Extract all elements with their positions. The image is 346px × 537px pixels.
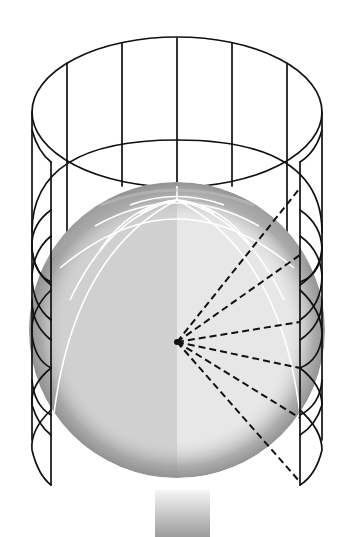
cylinder-top-front-right [300,130,322,162]
globe-pedestal [155,490,210,537]
projection-center-point [174,339,180,345]
cylindrical-projection-diagram [0,0,346,537]
globe [29,182,325,482]
